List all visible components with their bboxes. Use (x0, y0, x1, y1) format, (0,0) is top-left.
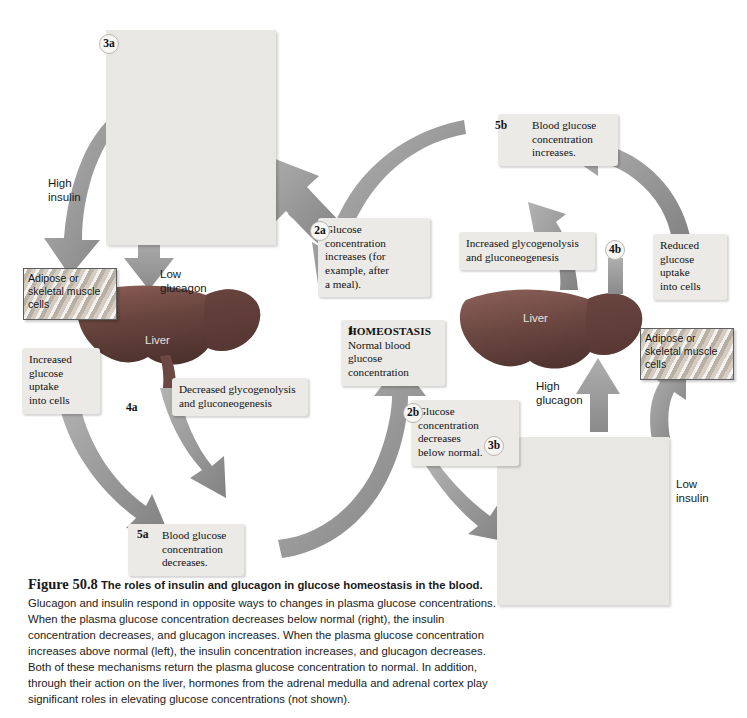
homeostasis-line: Normal blood (348, 339, 438, 353)
callout-2b-line: concentration (418, 419, 512, 433)
step-badge-5b: 5b (495, 119, 507, 131)
uptake-line: into cells (29, 394, 93, 408)
chart-panel-3b (497, 437, 669, 605)
callout-5b-line: Blood glucose (532, 119, 611, 133)
callout-reduced-uptake: Reduced glucose uptake into cells (653, 234, 727, 300)
callout-5b-line: increases. (532, 146, 611, 160)
label-low-glucagon: Low glucagon (160, 267, 207, 296)
label-line: glucagon (536, 394, 583, 406)
figure-number: Figure 50.8 (28, 576, 98, 592)
label-high-insulin: High insulin (48, 176, 81, 205)
callout-homeostasis: HOMEOSTASIS Normal blood glucose concent… (341, 320, 445, 386)
figure-caption: Figure 50.8 The roles of insulin and glu… (28, 574, 498, 707)
callout-5b-line: concentration (532, 133, 611, 147)
callout-2a-line: example, after (325, 264, 423, 278)
tissue-line: skeletal muscle (645, 345, 717, 357)
label-line: Low (160, 268, 181, 280)
homeostasis-line: glucose (348, 352, 438, 366)
figure-canvas: 3a Blood hormone concentration Insulin c… (0, 0, 747, 718)
callout-2b: Glucose concentration decreases below no… (411, 400, 519, 466)
callout-2a-line: increases (for (325, 250, 423, 264)
step-badge-1: 1 (348, 324, 354, 336)
tissue-line: cells (645, 358, 666, 370)
label-liver-right: Liver (523, 311, 548, 325)
callout-5a-line: Blood glucose (162, 529, 237, 543)
reduced-uptake-line: glucose (660, 253, 720, 267)
tissue-line: Adipose or (645, 332, 696, 344)
step-badge-3b: 3b (484, 436, 504, 456)
tissue-box-left: Adipose or skeletal muscle cells (23, 268, 117, 320)
callout-5a-line: concentration (162, 543, 237, 557)
increased-gly-line: and gluconeogenesis (466, 251, 588, 265)
step-badge-5a: 5a (137, 528, 149, 540)
homeostasis-title: HOMEOSTASIS (348, 325, 438, 339)
callout-2b-line: Glucose (418, 405, 512, 419)
tissue-label-right: Adipose or skeletal muscle cells (645, 332, 717, 371)
decreased-gly-line: Decreased glycogenolysis (179, 383, 301, 397)
callout-2a-line: Glucose (325, 223, 423, 237)
callout-2a-line: concentration (325, 237, 423, 251)
uptake-line: uptake (29, 380, 93, 394)
tissue-line: cells (28, 298, 49, 310)
label-line: High (536, 380, 560, 392)
label-line: Low (676, 478, 697, 490)
chart-panel-3a (106, 30, 276, 245)
liver-right (460, 289, 642, 368)
label-line: insulin (48, 191, 81, 203)
step-badge-3a: 3a (99, 34, 119, 54)
label-liver-left: Liver (145, 333, 170, 347)
tissue-line: skeletal muscle (28, 285, 100, 297)
increased-gly-line: Increased glycogenolysis (466, 237, 588, 251)
decreased-gly-line: and gluconeogenesis (179, 397, 301, 411)
reduced-uptake-line: Reduced (660, 239, 720, 253)
figure-title: The roles of insulin and glucagon in glu… (101, 579, 483, 591)
callout-decreased-glycogenolysis: Decreased glycogenolysis and gluconeogen… (172, 378, 308, 416)
label-line: High (48, 177, 72, 189)
uptake-line: Increased (29, 353, 93, 367)
uptake-line: glucose (29, 367, 93, 381)
step-badge-2a: 2a (310, 221, 330, 241)
tissue-box-right: Adipose or skeletal muscle cells (640, 328, 734, 380)
tissue-line: Adipose or (28, 272, 79, 284)
step-badge-4a: 4a (126, 401, 138, 413)
label-low-insulin: Low insulin (676, 477, 709, 506)
homeostasis-line: concentration (348, 366, 438, 380)
step-badge-2b: 2b (403, 403, 423, 423)
connector-4b-stem (608, 258, 623, 294)
label-high-glucagon: High glucagon (536, 379, 583, 408)
figure-body: Glucagon and insulin respond in opposite… (28, 597, 496, 705)
callout-increased-glycogenolysis: Increased glycogenolysis and gluconeogen… (459, 232, 595, 270)
reduced-uptake-line: uptake (660, 266, 720, 280)
arrow-2b-to-3b (426, 458, 508, 542)
callout-5a-line: decreases. (162, 556, 237, 570)
step-badge-4b: 4b (605, 240, 625, 260)
tissue-label-left: Adipose or skeletal muscle cells (28, 272, 100, 311)
label-line: insulin (676, 492, 709, 504)
callout-2a: Glucose concentration increases (for exa… (318, 218, 430, 297)
callout-5b: Blood glucose concentration increases. (498, 114, 618, 166)
arrow-uptake-to-5a (58, 396, 168, 532)
callout-increased-uptake: Increased glucose uptake into cells (22, 348, 100, 414)
reduced-uptake-line: into cells (660, 280, 720, 294)
label-line: glucagon (160, 282, 207, 294)
callout-2a-line: a meal). (325, 278, 423, 292)
